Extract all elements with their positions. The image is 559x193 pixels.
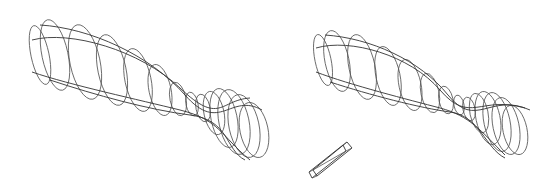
wireframe-scene — [0, 0, 559, 193]
left-wireframe-model — [25, 17, 274, 160]
cross-section-ellipse — [370, 44, 406, 108]
cross-section-ellipse — [212, 87, 255, 158]
right-wireframe-model — [310, 28, 532, 158]
cross-section-ellipse — [310, 33, 336, 87]
profile-rail — [50, 80, 245, 160]
box-edge — [313, 151, 346, 170]
cross-section-ellipse — [25, 24, 55, 86]
wireframe-box — [309, 142, 352, 178]
cross-section-ellipse — [184, 91, 201, 117]
box-edge — [343, 142, 347, 145]
profile-rail — [316, 72, 505, 155]
cross-section-ellipse — [223, 92, 266, 161]
cross-section-ellipse — [205, 86, 243, 150]
diagram-canvas — [0, 0, 559, 193]
profile-rail — [32, 37, 250, 108]
